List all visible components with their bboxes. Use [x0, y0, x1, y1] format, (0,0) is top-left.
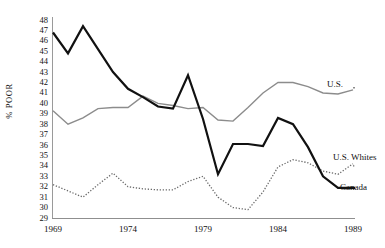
series-line-u-s-whites — [53, 160, 353, 210]
series-label-us-whites: U.S. Whites — [333, 152, 377, 162]
series-label-us: U.S. — [327, 79, 343, 89]
chart-plot-area — [0, 0, 385, 248]
chart-container: % POOR 484746454443424140393837363534333… — [0, 0, 385, 248]
series-label-canada: Canada — [340, 182, 367, 192]
